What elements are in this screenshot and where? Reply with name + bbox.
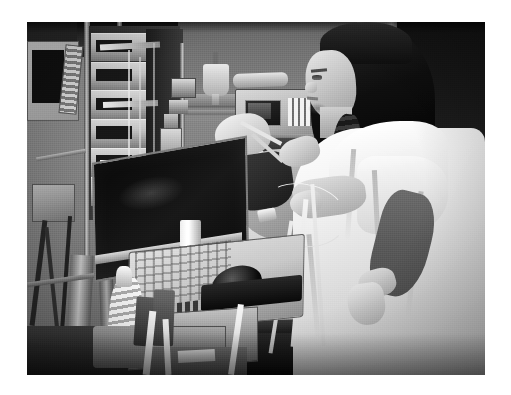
clinician-nose bbox=[305, 82, 318, 93]
iv-pump-screen bbox=[96, 69, 132, 82]
ultrasound-cart-label bbox=[178, 349, 215, 363]
pole-clamp bbox=[171, 78, 196, 98]
shelf-item bbox=[233, 72, 288, 88]
ultrasound-probe bbox=[116, 266, 132, 287]
ultrasound-cart-panel bbox=[169, 326, 226, 349]
clinician-lips bbox=[307, 96, 318, 100]
iv-pump-screen bbox=[96, 126, 132, 139]
photo-page bbox=[0, 0, 511, 395]
iv-bag bbox=[203, 64, 228, 96]
monitor-left-screen bbox=[32, 50, 64, 103]
iv-bag-neck bbox=[212, 94, 219, 105]
pole-clamp bbox=[169, 100, 188, 114]
wall-outlet bbox=[164, 114, 178, 128]
clinician-eye bbox=[312, 75, 322, 80]
photograph bbox=[27, 22, 485, 375]
